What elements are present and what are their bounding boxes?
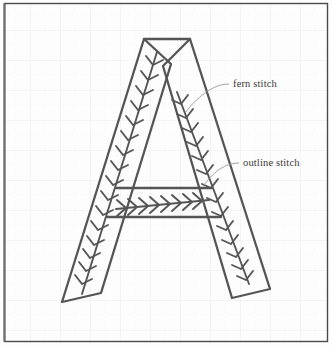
letter-a-stitch-diagram: fern stitch outline stitch: [0, 0, 332, 346]
embroidery-figure: fern stitch outline stitch: [0, 0, 332, 346]
label-outline-stitch: outline stitch: [243, 157, 300, 168]
label-fern-stitch: fern stitch: [233, 78, 278, 89]
graph-grid: [3, 3, 329, 343]
